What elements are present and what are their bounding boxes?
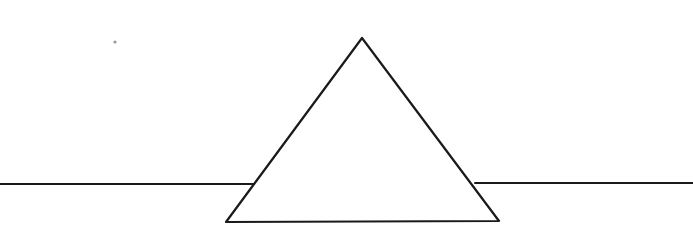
sketch-drawing (0, 0, 693, 249)
triangle-shape (226, 38, 499, 222)
sketch-canvas (0, 0, 693, 249)
stray-dot (113, 40, 116, 43)
